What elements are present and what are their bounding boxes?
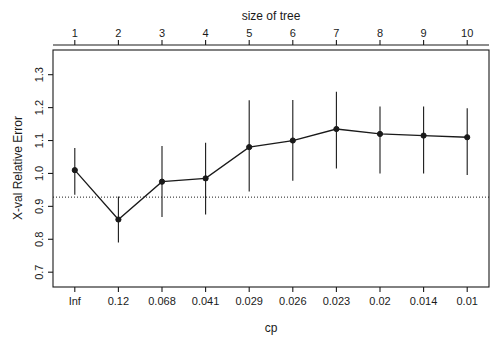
data-point-marker bbox=[334, 126, 339, 131]
top-axis-title: size of tree bbox=[242, 9, 301, 23]
y-axis-tick-label: 0.7 bbox=[33, 265, 45, 280]
data-point-marker bbox=[159, 179, 164, 184]
top-axis-tick-label: 10 bbox=[461, 27, 473, 39]
y-axis-tick-label: 1.3 bbox=[33, 67, 45, 82]
y-axis-tick-label: 1.1 bbox=[33, 133, 45, 148]
top-axis-tick-label: 4 bbox=[203, 27, 209, 39]
x-axis-tick-label: 0.029 bbox=[235, 295, 263, 307]
x-axis-title: cp bbox=[265, 321, 278, 335]
x-axis-tick-label: 0.014 bbox=[410, 295, 438, 307]
data-point-marker bbox=[247, 145, 252, 150]
top-axis-tick-label: 5 bbox=[246, 27, 252, 39]
data-point-marker bbox=[421, 133, 426, 138]
plot-figure: size of tree 12345678910 0.70.80.91.01.1… bbox=[0, 0, 503, 341]
top-axis-tick-label: 7 bbox=[333, 27, 339, 39]
x-axis-tick-label: 0.026 bbox=[279, 295, 307, 307]
y-axis-tick-label: 1.2 bbox=[33, 100, 45, 115]
y-axis-tick-label: 0.8 bbox=[33, 232, 45, 247]
x-axis-tick-label: 0.023 bbox=[323, 295, 351, 307]
y-axis-title: X-val Relative Error bbox=[11, 116, 25, 220]
x-axis-tick-label: 0.02 bbox=[369, 295, 390, 307]
x-axis-tick-label: 0.041 bbox=[192, 295, 220, 307]
top-axis-tick-label: 1 bbox=[72, 27, 78, 39]
data-point-marker bbox=[290, 138, 295, 143]
data-point-marker bbox=[203, 176, 208, 181]
top-axis-tick-label: 3 bbox=[159, 27, 165, 39]
data-point-marker bbox=[377, 131, 382, 136]
top-axis-tick-label: 2 bbox=[115, 27, 121, 39]
y-axis-tick-label: 1.0 bbox=[33, 166, 45, 181]
top-axis-tick-label: 8 bbox=[377, 27, 383, 39]
x-axis-tick-label: 0.12 bbox=[108, 295, 129, 307]
x-axis-tick-label: 0.01 bbox=[456, 295, 477, 307]
x-axis-tick-label: Inf bbox=[69, 295, 82, 307]
x-axis-tick-label: 0.068 bbox=[148, 295, 176, 307]
data-point-marker bbox=[116, 217, 121, 222]
y-axis-tick-label: 0.9 bbox=[33, 199, 45, 214]
top-axis-tick-label: 6 bbox=[290, 27, 296, 39]
top-axis-tick-label: 9 bbox=[421, 27, 427, 39]
data-point-marker bbox=[72, 168, 77, 173]
data-point-marker bbox=[465, 135, 470, 140]
cp-plot-svg: size of tree 12345678910 0.70.80.91.01.1… bbox=[0, 0, 503, 341]
